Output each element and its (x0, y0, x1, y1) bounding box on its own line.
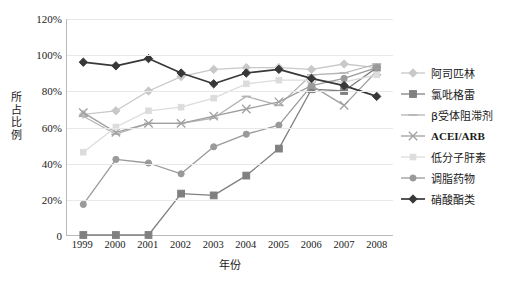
series-line (79, 67, 381, 137)
x-tick-label: 2006 (301, 239, 322, 250)
x-tick-label: 2008 (366, 239, 387, 250)
legend-label: 低分子肝素 (426, 149, 486, 165)
legend-label: 阿司匹林 (426, 65, 475, 81)
data-point-diamond (79, 58, 87, 66)
legend-marker-square-icon (400, 87, 426, 101)
legend-label: 硝酸酯类 (426, 191, 475, 207)
gridline (67, 128, 393, 129)
data-point-diamond (210, 65, 218, 73)
data-point-circle (308, 83, 314, 89)
gridline (67, 19, 393, 20)
y-axis-tick-labels: 020%40%60%80%100%120% (22, 0, 62, 285)
data-point-small-square (276, 77, 282, 83)
series-line (79, 64, 382, 134)
data-point-small-square (178, 104, 184, 110)
x-axis-tick-labels: 1999200020012002200320042005200620072008 (66, 239, 393, 255)
data-point-diamond (112, 62, 120, 70)
data-point-circle (211, 144, 217, 150)
y-tick-label: 120% (22, 13, 62, 25)
data-point-diamond (409, 68, 417, 76)
data-point-square (80, 232, 87, 239)
data-point-circle (178, 171, 184, 177)
legend-marker-dash-icon (400, 108, 426, 122)
series-line (79, 54, 381, 100)
legend-item[interactable]: 调脂药物 (400, 167, 517, 188)
data-point-circle (243, 131, 249, 137)
legend-marker-diamond-icon (400, 192, 426, 206)
legend: 阿司匹林氯吡格雷β受体阻滞剂ACEI/ARB低分子肝素调脂药物硝酸酯类 (400, 62, 517, 209)
gridline (67, 200, 393, 201)
data-point-square (410, 90, 417, 97)
data-point-diamond (373, 92, 381, 100)
legend-label: 氯吡格雷 (426, 86, 475, 102)
data-point-diamond (340, 60, 348, 68)
line-chart: 所占比例 020%40%60%80%100%120% 1999200020012… (0, 0, 517, 285)
data-point-diamond (307, 65, 315, 73)
data-point-diamond (242, 69, 250, 77)
series-line (79, 60, 381, 119)
legend-item[interactable]: 氯吡格雷 (400, 83, 517, 104)
plot-area (66, 19, 393, 236)
data-point-circle (374, 65, 380, 71)
x-tick-label: 2005 (268, 239, 289, 250)
gridline (67, 55, 393, 56)
y-tick-label: 80% (22, 85, 62, 97)
y-tick-label: 0 (22, 230, 62, 242)
data-point-small-square (374, 72, 380, 78)
series-line (81, 72, 380, 155)
data-point-small-square (244, 81, 250, 87)
data-point-small-square (81, 149, 87, 155)
x-tick-label: 2007 (333, 239, 354, 250)
data-point-circle (80, 201, 86, 207)
legend-item[interactable]: 阿司匹林 (400, 62, 517, 83)
gridline (67, 164, 393, 165)
legend-marker-small-square-icon (400, 150, 426, 164)
legend-item[interactable]: 硝酸酯类 (400, 188, 517, 209)
legend-item[interactable]: 低分子肝素 (400, 146, 517, 167)
legend-marker-x-icon (400, 129, 426, 143)
data-point-square (276, 145, 283, 152)
data-point-small-square (410, 154, 416, 160)
y-tick-label: 60% (22, 122, 62, 134)
data-point-square (243, 172, 250, 179)
legend-label: 调脂药物 (426, 170, 475, 186)
data-point-circle (113, 156, 119, 162)
x-tick-label: 2001 (137, 239, 158, 250)
data-point-square (178, 190, 185, 197)
data-point-small-square (211, 95, 217, 101)
y-tick-label: 100% (22, 49, 62, 61)
data-point-small-square (146, 108, 152, 114)
data-point-square (113, 232, 120, 239)
legend-marker-diamond-icon (400, 66, 426, 80)
legend-item[interactable]: ACEI/ARB (400, 125, 517, 146)
data-point-diamond (409, 194, 417, 202)
data-point-square (145, 232, 152, 239)
legend-marker-circle-icon (400, 171, 426, 185)
legend-item[interactable]: β受体阻滞剂 (400, 104, 517, 125)
y-tick-label: 20% (22, 194, 62, 206)
x-tick-label: 2004 (235, 239, 256, 250)
x-tick-label: 2000 (105, 239, 126, 250)
data-point-diamond (210, 80, 218, 88)
y-tick-label: 40% (22, 158, 62, 170)
data-point-circle (341, 75, 347, 81)
data-point-square (210, 192, 217, 199)
legend-label: ACEI/ARB (426, 130, 485, 142)
data-point-circle (410, 174, 416, 180)
x-tick-label: 1999 (72, 239, 93, 250)
data-point-diamond (112, 107, 120, 115)
x-axis-title: 年份 (66, 256, 393, 272)
data-point-x (340, 101, 348, 109)
gridline (67, 91, 393, 92)
legend-label: β受体阻滞剂 (426, 107, 493, 123)
x-tick-label: 2003 (203, 239, 224, 250)
x-tick-label: 2002 (170, 239, 191, 250)
